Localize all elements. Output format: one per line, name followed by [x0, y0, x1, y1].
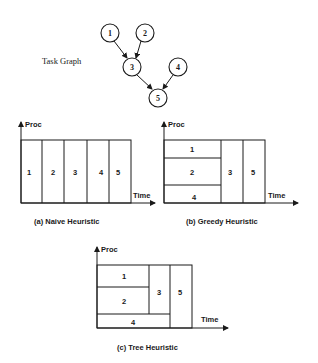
task-block-2: 2 — [122, 297, 126, 306]
schedule-box — [164, 140, 265, 203]
task-block-3: 3 — [73, 168, 77, 177]
caption: (a) Naive Heuristic — [34, 217, 99, 226]
y-axis-label: Proc — [101, 245, 118, 254]
edge-4-5 — [163, 75, 173, 89]
task-node-3: 3 — [123, 58, 141, 76]
task-block-3: 3 — [157, 288, 161, 297]
task-block-4: 4 — [192, 193, 197, 202]
x-axis-label: Time — [201, 315, 218, 324]
task-block-1: 1 — [27, 168, 31, 177]
task-block-2: 2 — [190, 168, 194, 177]
edge-1-3 — [114, 41, 127, 58]
task-block-1: 1 — [122, 272, 126, 281]
x-axis-label: Time — [268, 191, 285, 200]
figure-canvas: Task Graph 1 2 3 4 5 — [0, 0, 318, 363]
task-node-4: 4 — [169, 58, 187, 76]
y-axis-label: Proc — [25, 120, 42, 129]
task-block-3: 3 — [228, 168, 232, 177]
task-node-label: 1 — [108, 29, 112, 38]
task-node-label: 2 — [143, 29, 147, 38]
x-axis-label: Time — [133, 191, 150, 200]
task-block-2: 2 — [51, 168, 55, 177]
task-node-2: 2 — [136, 24, 154, 42]
task-node-5: 5 — [149, 89, 167, 107]
caption: (c) Tree Heuristic — [117, 343, 178, 352]
task-block-1: 1 — [190, 145, 194, 154]
task-block-4: 4 — [131, 318, 136, 327]
task-graph-label: Task Graph — [42, 56, 82, 66]
caption: (b) Greedy Heuristic — [186, 217, 258, 226]
task-block-5: 5 — [251, 168, 255, 177]
task-block-5: 5 — [116, 168, 120, 177]
task-block-5: 5 — [178, 288, 182, 297]
y-axis-label: Proc — [168, 120, 185, 129]
schedule-greedy-labels: Proc Time 1 2 4 3 5 (b) Greedy Heuristic — [168, 120, 285, 226]
schedule-tree-labels: Proc Time 1 2 3 4 5 (c) Tree Heuristic — [101, 245, 218, 352]
task-node-label: 5 — [156, 94, 160, 103]
task-graph: Task Graph 1 2 3 4 5 — [42, 24, 187, 107]
schedule-naive-labels: Proc Time 1 2 3 4 5 (a) Naive Heuristic — [25, 120, 150, 226]
task-block-4: 4 — [99, 168, 104, 177]
task-node-1: 1 — [101, 24, 119, 42]
edge-3-5 — [137, 75, 152, 89]
task-node-label: 4 — [176, 63, 180, 72]
edge-2-3 — [136, 41, 141, 58]
task-node-label: 3 — [130, 63, 134, 72]
